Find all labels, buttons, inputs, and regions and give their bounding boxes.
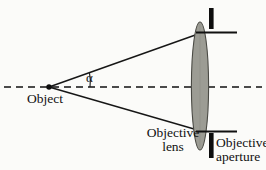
optics-ray-diagram: Object α Objective lens Objective apertu…: [0, 0, 266, 170]
object-point-marker: [46, 84, 51, 89]
lower-aperture-bar: [209, 133, 214, 158]
upper-aperture-bar: [209, 8, 214, 29]
objective-aperture-label: Objective aperture: [216, 136, 266, 164]
objective-lens-label: Objective lens: [142, 126, 204, 154]
upper-ray-line: [49, 33, 201, 87]
alpha-angle-label: α: [86, 71, 93, 85]
object-label: Object: [27, 92, 63, 106]
